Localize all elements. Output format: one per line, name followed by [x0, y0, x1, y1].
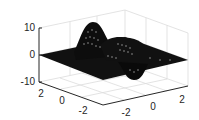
surface-plot: 10 0 -10 2 0 -2 -2 0 2	[0, 0, 199, 120]
z-tick-labels: 10 0 -10	[21, 22, 36, 87]
x-tick-2: 2	[179, 94, 185, 105]
z-tick-neg10: -10	[21, 76, 36, 87]
y-tick-labels: 2 0 -2	[38, 88, 88, 116]
x-tick-neg2: -2	[122, 107, 131, 118]
z-tick-10: 10	[24, 22, 36, 33]
y-tick-2: 2	[38, 88, 44, 99]
x-tick-0: 0	[150, 101, 156, 112]
z-tick-0: 0	[29, 49, 35, 60]
x-tick-labels: -2 0 2	[122, 94, 186, 118]
y-tick-0: 0	[59, 95, 65, 106]
mesh-surface	[39, 22, 188, 80]
y-tick-neg2: -2	[79, 105, 88, 116]
